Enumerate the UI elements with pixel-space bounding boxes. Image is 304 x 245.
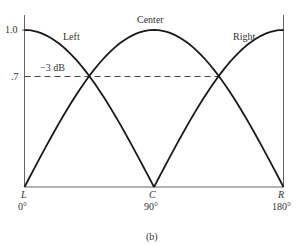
caption: (b): [146, 232, 158, 242]
left-curve: [25, 30, 155, 187]
right-label: Right: [233, 32, 255, 42]
x-label-R: R: [278, 190, 284, 200]
x-label-L: L: [21, 190, 27, 200]
x-label-180deg: 180°: [272, 202, 291, 212]
center-label: Center: [137, 15, 164, 25]
minus-3db-label: −3 dB: [40, 63, 65, 73]
x-label-90deg: 90°: [144, 202, 158, 212]
left-label: Left: [63, 32, 80, 42]
x-label-0deg: 0°: [18, 202, 27, 212]
center-curve: [25, 30, 284, 187]
y-tick-07: .7: [11, 72, 19, 82]
y-tick-1: 1.0: [5, 25, 18, 35]
x-label-C: C: [149, 190, 156, 200]
right-curve: [154, 30, 284, 187]
